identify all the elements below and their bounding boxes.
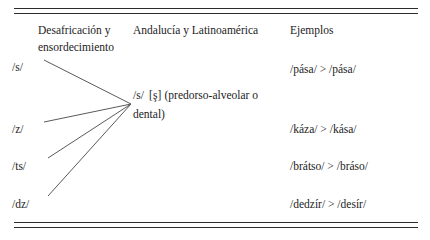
table-top-rule-lower — [14, 13, 418, 14]
source-phoneme-z: /z/ — [12, 122, 24, 136]
example-row-bratso: /brátso/ > /bráso/ — [290, 159, 368, 173]
table-top-rule-upper — [14, 8, 418, 9]
column-header-andalucia-latinoamerica: Andalucía y Latinoamérica — [133, 22, 303, 39]
linguistic-merger-figure: Desafricación y ensordecimiento Andalucí… — [0, 0, 430, 240]
example-row-dedzir: /dedzír/ > /desír/ — [290, 197, 366, 211]
connector-line-2 — [48, 104, 131, 158]
merged-phoneme-cell: /s/[ş] (predorso-alveolar o dental) — [133, 86, 285, 124]
merged-allophone-symbol: [ş] — [149, 89, 162, 101]
merged-phoneme-symbol: /s/ — [133, 89, 144, 101]
source-phoneme-s: /s/ — [12, 60, 23, 74]
table-bottom-rule-upper — [14, 222, 418, 223]
column-header-ejemplos: Ejemplos — [290, 22, 410, 39]
example-row-kaza: /káza/ > /kása/ — [290, 122, 357, 136]
source-phoneme-dz: /dz/ — [12, 197, 29, 211]
connector-line-0 — [44, 60, 131, 104]
connector-line-3 — [48, 104, 131, 196]
source-phoneme-ts: /ts/ — [12, 159, 26, 173]
example-row-pasa: /pása/ > /pása/ — [290, 62, 356, 76]
table-bottom-rule-lower — [14, 227, 418, 228]
connector-line-1 — [44, 104, 131, 122]
